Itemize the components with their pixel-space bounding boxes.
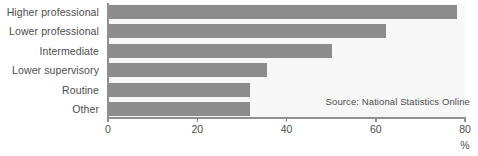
category-label-intermediate: Intermediate bbox=[0, 44, 104, 58]
x-axis-unit-label: % bbox=[460, 139, 469, 151]
bar-lower-supervisory bbox=[109, 63, 267, 77]
bar-routine bbox=[109, 83, 250, 97]
bar-row bbox=[109, 44, 465, 58]
bar-other bbox=[109, 102, 250, 116]
bar-row bbox=[109, 24, 465, 38]
x-axis-tick-label: 40 bbox=[281, 123, 293, 135]
bar-row bbox=[109, 5, 465, 19]
bar-row bbox=[109, 83, 465, 97]
x-axis-tick-label: 80 bbox=[459, 123, 471, 135]
category-label-lower-professional: Lower professional bbox=[0, 24, 104, 38]
category-label-other: Other bbox=[0, 102, 104, 116]
category-axis-labels: Higher professional Lower professional I… bbox=[0, 5, 104, 116]
x-axis-tick bbox=[286, 117, 288, 122]
x-axis-tick-label: 0 bbox=[105, 123, 111, 135]
bar-lower-professional bbox=[109, 24, 386, 38]
y-axis-line bbox=[107, 3, 109, 118]
bar-higher-professional bbox=[109, 5, 457, 19]
x-axis-tick bbox=[464, 117, 466, 122]
category-label-lower-supervisory: Lower supervisory bbox=[0, 63, 104, 77]
x-axis-tick-label: 20 bbox=[191, 123, 203, 135]
bar-chart: Higher professional Lower professional I… bbox=[0, 0, 478, 156]
category-label-higher-professional: Higher professional bbox=[0, 5, 104, 19]
x-axis-tick bbox=[197, 117, 199, 122]
category-label-routine: Routine bbox=[0, 83, 104, 97]
x-axis-tick bbox=[107, 117, 109, 122]
x-axis-tick bbox=[375, 117, 377, 122]
x-axis-tick-label: 60 bbox=[370, 123, 382, 135]
source-note: Source: National Statistics Online bbox=[326, 96, 470, 107]
bar-row bbox=[109, 63, 465, 77]
bar-intermediate bbox=[109, 44, 332, 58]
